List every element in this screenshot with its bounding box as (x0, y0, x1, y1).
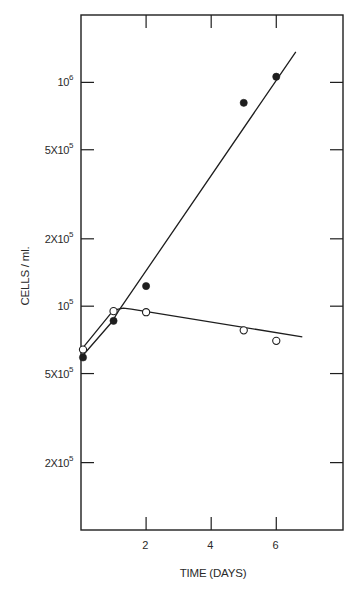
y-tick-label: 105 (58, 297, 74, 312)
y-tick-label-exponent: 6 (69, 73, 74, 82)
y-tick-label-exponent: 5 (69, 141, 74, 150)
filled-circle-point (273, 73, 280, 80)
y-tick-label-base: 10 (58, 300, 70, 312)
y-tick-label-exponent: 5 (69, 230, 74, 239)
y-tick-label-base: 2X10 (45, 457, 69, 469)
open-circle-point (142, 309, 149, 316)
y-tick-label-exponent: 5 (69, 365, 74, 374)
y-axis-title: CELLS / ml. (19, 246, 31, 305)
y-tick-label-base: 2X10 (45, 233, 69, 245)
plot-border (81, 15, 343, 530)
y-tick-label: 5X105 (45, 141, 74, 156)
filled-circle-point (142, 282, 149, 289)
data-points (79, 73, 279, 361)
y-tick-label-base: 5X10 (45, 368, 69, 380)
y-tick-label: 2X105 (45, 454, 74, 469)
y-tick-label-base: 10 (58, 76, 70, 88)
y-tick-label-base: 5X10 (45, 144, 69, 156)
filled-circle-point (240, 99, 247, 106)
axis-labels: TIME (DAYS) CELLS / ml. (19, 246, 247, 579)
filled-circle-point (79, 354, 86, 361)
open-circle-point (240, 327, 247, 334)
plot-frame (81, 15, 343, 530)
y-tick-label: 2X105 (45, 230, 74, 245)
open-circle-point (79, 346, 86, 353)
x-tick-label: 6 (272, 539, 278, 551)
y-tick-label: 106 (58, 73, 74, 88)
chart-canvas: 2461065X1052X1051055X1052X105 TIME (DAYS… (0, 0, 356, 592)
open-circle-point (110, 308, 117, 315)
y-tick-label: 5X105 (45, 365, 74, 380)
x-axis-title: TIME (DAYS) (180, 567, 247, 579)
x-tick-label: 2 (142, 539, 148, 551)
open-circle-point (273, 337, 280, 344)
x-tick-label: 4 (207, 539, 213, 551)
axis-ticks: 2461065X1052X1051055X1052X105 (45, 15, 343, 551)
y-tick-label-exponent: 5 (69, 454, 74, 463)
filled-circle-point (110, 317, 117, 324)
y-tick-label-exponent: 5 (69, 297, 74, 306)
chart-figure: 2461065X1052X1051055X1052X105 TIME (DAYS… (0, 0, 356, 592)
